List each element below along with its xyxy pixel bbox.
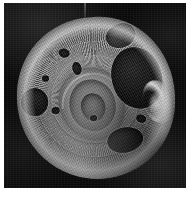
figure-root: Grayscale scanning electron micrograph o… (0, 0, 196, 204)
micrograph-plate (4, 3, 186, 188)
